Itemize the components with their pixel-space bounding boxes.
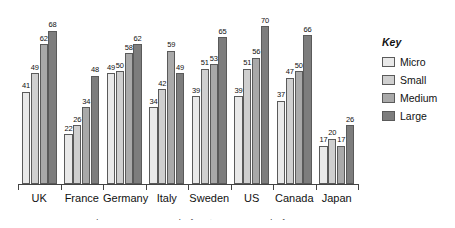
bar-rect: [82, 107, 90, 184]
axis-tick: [103, 184, 104, 190]
category-label: Germany: [103, 192, 146, 205]
bar-value-label: 51: [243, 59, 251, 67]
bar-value-label: 56: [252, 48, 260, 56]
bar-group: 34425949: [146, 8, 189, 184]
bar-rect: [234, 96, 242, 184]
bar-value-label: 41: [22, 82, 30, 90]
bar-group: 17201726: [316, 8, 359, 184]
bar-rect: [158, 89, 166, 184]
legend-items: MicroSmallMediumLarge: [382, 53, 454, 125]
axis-tick: [188, 184, 189, 190]
legend-swatch-icon: [382, 111, 395, 121]
bar-rect: [201, 69, 209, 184]
bar-rect: [176, 73, 184, 184]
bar-value-label: 62: [40, 35, 48, 43]
bar-rect: [210, 64, 218, 184]
bar-value-label: 20: [328, 129, 336, 137]
bar-group: 39515670: [231, 8, 274, 184]
bar-value-label: 66: [303, 26, 311, 34]
axis-tick: [316, 184, 317, 190]
legend-item: Small: [382, 71, 454, 89]
bar-rect: [346, 125, 354, 184]
bar-value-label: 70: [261, 17, 269, 25]
bar-rect: [73, 125, 81, 184]
bar-rect: [48, 31, 56, 184]
bar-rect: [337, 146, 345, 184]
bar-group: 41496268: [18, 8, 61, 184]
bar-rect: [295, 71, 303, 184]
bar-rect: [167, 51, 175, 184]
bar-group: 49505862: [103, 8, 146, 184]
category-label: UK: [18, 192, 61, 205]
bar-value-label: 34: [82, 98, 90, 106]
legend-label: Small: [400, 74, 426, 86]
bar-rect: [125, 53, 133, 184]
category-label: Italy: [146, 192, 189, 205]
legend-swatch-icon: [382, 57, 395, 67]
plot-area: 4149626822263448495058623442594939515365…: [18, 8, 358, 184]
category-label: Canada: [273, 192, 316, 205]
caption-text: Source: Micro = enterprises with 1 to 9 …: [10, 219, 301, 221]
bar-rect: [286, 78, 294, 184]
bar-value-label: 49: [176, 64, 184, 72]
bar-rect: [303, 35, 311, 184]
bar-value-label: 50: [116, 62, 124, 70]
legend-item: Medium: [382, 89, 454, 107]
bar-rect: [261, 26, 269, 184]
legend-item: Large: [382, 107, 454, 125]
bar-value-label: 39: [192, 87, 200, 95]
bar-value-label: 37: [277, 91, 285, 99]
bar-value-label: 42: [158, 80, 166, 88]
legend-title: Key: [382, 36, 454, 49]
bar-rect: [328, 139, 336, 184]
bar-value-label: 26: [73, 116, 81, 124]
bar-value-label: 34: [150, 98, 158, 106]
bar-value-label: 17: [320, 136, 328, 144]
bar-value-label: 65: [218, 28, 226, 36]
axis-tick: [231, 184, 232, 190]
bar-rect: [91, 76, 99, 184]
bar-value-label: 47: [286, 68, 294, 76]
bar-rect: [277, 101, 285, 184]
bar-rect: [40, 44, 48, 184]
category-label: France: [61, 192, 104, 205]
bar-value-label: 39: [235, 87, 243, 95]
category-label: Sweden: [188, 192, 231, 205]
bar-value-label: 58: [125, 44, 133, 52]
bar-rect: [133, 44, 141, 184]
category-label: Japan: [316, 192, 359, 205]
bar-rect: [243, 69, 251, 184]
axis-tick: [146, 184, 147, 190]
bar-rect: [31, 73, 39, 184]
legend-label: Micro: [400, 56, 426, 68]
axis-tick: [273, 184, 274, 190]
bar-value-label: 17: [337, 136, 345, 144]
bar-value-label: 48: [91, 66, 99, 74]
legend-label: Large: [400, 110, 427, 122]
bar-value-label: 62: [133, 35, 141, 43]
bar-value-label: 49: [31, 64, 39, 72]
bar-value-label: 51: [201, 59, 209, 67]
bar-value-label: 59: [167, 41, 175, 49]
bar-value-label: 50: [295, 62, 303, 70]
legend-swatch-icon: [382, 75, 395, 85]
bar-rect: [22, 92, 30, 185]
bar-rect: [149, 107, 157, 184]
bar-rect: [252, 58, 260, 184]
bar-group: 22263448: [61, 8, 104, 184]
bar-chart: 4149626822263448495058623442594939515365…: [0, 0, 455, 228]
bar-group: 39515365: [188, 8, 231, 184]
bar-rect: [107, 73, 115, 184]
bar-rect: [192, 96, 200, 184]
bar-rect: [218, 37, 226, 184]
bar-value-label: 22: [65, 125, 73, 133]
legend-label: Medium: [400, 92, 437, 104]
bar-value-label: 53: [210, 55, 218, 63]
bar-value-label: 26: [346, 116, 354, 124]
axis-tick: [358, 184, 359, 190]
legend-item: Micro: [382, 53, 454, 71]
bar-rect: [64, 134, 72, 184]
axis-tick: [18, 184, 19, 190]
legend-swatch-icon: [382, 93, 395, 103]
bar-value-label: 68: [48, 21, 56, 29]
